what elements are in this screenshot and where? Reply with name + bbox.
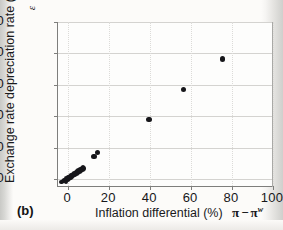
- x-tick-label-60: 60: [170, 190, 210, 205]
- gridline-vertical: [109, 22, 110, 186]
- x-axis-tick: [273, 186, 274, 190]
- data-point: [82, 166, 86, 170]
- gridline-horizontal: [58, 22, 272, 23]
- y-axis-tick: [54, 148, 58, 149]
- x-tick-label-100: 100: [252, 190, 283, 205]
- y-axis-tick: [54, 22, 58, 23]
- x-tick-label-0: 0: [47, 190, 87, 205]
- data-point: [220, 56, 225, 61]
- pi-world: π: [251, 205, 258, 220]
- y-axis-tick: [54, 85, 58, 86]
- y-tick-label-0: 0: [0, 170, 4, 185]
- figure-panel-b: Exchange rate depreciation rate (%) ε 0 …: [0, 0, 283, 230]
- gridline-horizontal: [58, 179, 272, 180]
- gridline-horizontal: [58, 85, 272, 86]
- data-point: [95, 150, 100, 155]
- panel-label-b: (b): [17, 203, 34, 218]
- scatter-plot-area: [57, 22, 272, 187]
- gridline-horizontal: [58, 148, 272, 149]
- gridline-vertical: [232, 22, 233, 186]
- x-axis-title: Inflation differential (%): [95, 206, 223, 220]
- gridline-vertical: [68, 22, 69, 186]
- gridline-horizontal: [58, 116, 272, 117]
- y-tick-label-80: 80: [0, 44, 4, 59]
- x-axis-tick: [68, 186, 69, 190]
- y-axis-title: Exchange rate depreciation rate (%): [3, 0, 17, 183]
- y-axis-tick: [54, 53, 58, 54]
- x-axis-tick: [150, 186, 151, 190]
- y-tick-label-100: 100: [0, 13, 4, 28]
- y-tick-label-40: 40: [0, 107, 4, 122]
- y-tick-label-20: 20: [0, 139, 4, 154]
- gridline-vertical: [150, 22, 151, 186]
- gridline-horizontal: [58, 53, 272, 54]
- y-axis-tick: [54, 179, 58, 180]
- x-axis-tick: [191, 186, 192, 190]
- pi-world-superscript: w: [258, 205, 263, 214]
- x-tick-label-40: 40: [129, 190, 169, 205]
- scan-edge-bottom: [0, 220, 283, 230]
- x-tick-label-80: 80: [211, 190, 251, 205]
- gridline-vertical: [191, 22, 192, 186]
- x-axis-tick: [232, 186, 233, 190]
- data-point: [91, 154, 96, 159]
- y-axis-tick: [54, 116, 58, 117]
- minus-sign: −: [241, 205, 248, 220]
- data-point: [146, 117, 151, 122]
- y-tick-label-60: 60: [0, 76, 4, 91]
- data-point: [181, 87, 186, 92]
- pi-domestic: π: [232, 205, 239, 220]
- gridline-vertical: [273, 22, 274, 186]
- x-axis-tick: [109, 186, 110, 190]
- y-axis-symbol-epsilon: ε: [25, 6, 37, 10]
- x-axis-symbol-pi-differential: π−πw: [232, 205, 263, 221]
- x-tick-label-20: 20: [88, 190, 128, 205]
